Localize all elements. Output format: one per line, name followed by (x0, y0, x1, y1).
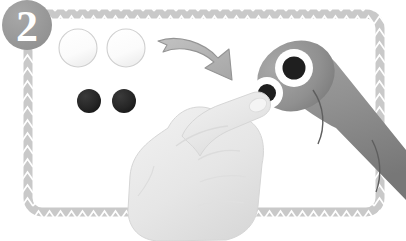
step-badge-layer: 2 (0, 0, 406, 241)
step-badge-label: 2 (16, 2, 38, 51)
illustration-canvas: 2 (0, 0, 406, 241)
